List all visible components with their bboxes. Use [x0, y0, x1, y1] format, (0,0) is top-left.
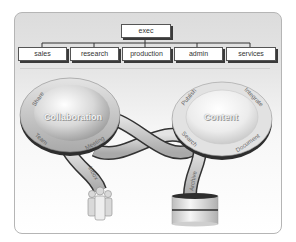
- database-icon: [172, 193, 218, 227]
- org-box-sales: sales: [18, 47, 67, 61]
- org-box-research: research: [70, 47, 119, 61]
- org-box-services: services: [226, 47, 276, 61]
- org-box-production: production: [122, 47, 171, 61]
- people-icon: [88, 187, 112, 220]
- hub-title-content: Content: [204, 112, 238, 122]
- hub-title-collaboration: Collaboration: [44, 112, 102, 122]
- org-box-admin: admin: [174, 47, 223, 61]
- section-divider: [20, 68, 270, 69]
- org-connectors: [42, 37, 250, 47]
- org-box-exec: exec: [121, 24, 171, 38]
